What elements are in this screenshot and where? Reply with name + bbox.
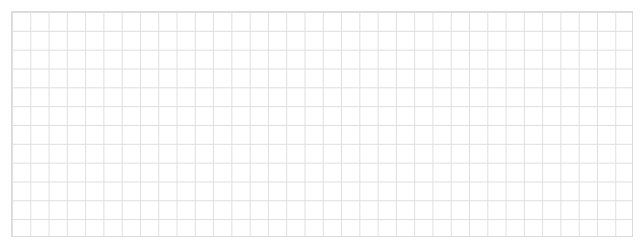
blank-grid-canvas	[0, 0, 643, 248]
grid-paper	[11, 11, 633, 237]
